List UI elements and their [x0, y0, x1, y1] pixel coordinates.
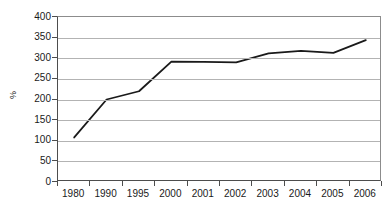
y-axis-tick-mark: [52, 37, 57, 38]
y-axis-tick-mark: [52, 78, 57, 79]
gridline: [58, 38, 380, 39]
x-axis-tick-mark: [122, 181, 123, 186]
gridline: [58, 58, 380, 59]
gridline: [58, 161, 380, 162]
x-axis-tick-mark: [251, 181, 252, 186]
gridline: [58, 120, 380, 121]
gridline: [58, 79, 380, 80]
series-line-path: [74, 40, 366, 137]
x-axis-tick-label: 2005: [316, 188, 348, 200]
y-axis-tick-mark: [52, 140, 57, 141]
x-axis-tick-mark: [187, 181, 188, 186]
y-axis-tick-mark: [52, 16, 57, 17]
y-axis-tick-label: 50: [18, 155, 51, 166]
y-axis-tick-label: 200: [18, 93, 51, 104]
y-axis-tick-mark: [52, 99, 57, 100]
plot-area: [57, 16, 381, 181]
y-axis-tick-label: 300: [18, 52, 51, 63]
x-axis-tick-label: 2006: [349, 188, 381, 200]
x-axis-tick-mark: [284, 181, 285, 186]
x-axis-tick-label: 1995: [122, 188, 154, 200]
x-axis-tick-mark: [349, 181, 350, 186]
y-axis-tick-labels: 050100150200250300350400: [18, 10, 51, 183]
line-chart: % 050100150200250300350400 1980199019952…: [0, 0, 392, 207]
x-axis-tick-mark: [219, 181, 220, 186]
x-axis-tick-mark: [381, 181, 382, 186]
y-axis-tick-label: 350: [18, 31, 51, 42]
y-axis-tick-label: 400: [18, 11, 51, 22]
y-axis-tick-label: 250: [18, 72, 51, 83]
y-axis-tick-label: 0: [18, 176, 51, 187]
x-axis-tick-mark: [89, 181, 90, 186]
x-axis-tick-label: 2003: [251, 188, 283, 200]
y-axis-tick-label: 100: [18, 134, 51, 145]
y-axis-tick-mark: [52, 160, 57, 161]
y-axis-tick-label: 150: [18, 114, 51, 125]
y-axis-tick-mark: [52, 57, 57, 58]
x-axis-tick-labels: 1980199019952000200120022003200420052006: [57, 188, 381, 202]
x-axis-tick-label: 2000: [154, 188, 186, 200]
gridline: [58, 100, 380, 101]
x-axis-tick-label: 2001: [187, 188, 219, 200]
x-axis-tick-mark: [57, 181, 58, 186]
x-axis-tick-mark: [316, 181, 317, 186]
x-axis-tick-label: 2002: [219, 188, 251, 200]
x-axis-tick-label: 2004: [284, 188, 316, 200]
x-axis-tick-label: 1980: [57, 188, 89, 200]
gridline: [58, 141, 380, 142]
x-axis-tick-label: 1990: [89, 188, 121, 200]
x-axis-tick-mark: [154, 181, 155, 186]
y-axis-tick-mark: [52, 119, 57, 120]
